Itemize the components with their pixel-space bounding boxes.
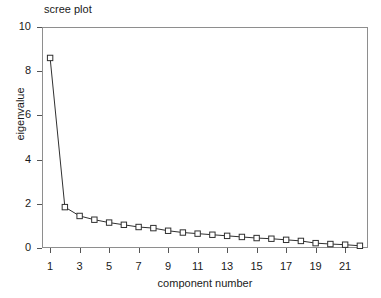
data-point-marker	[136, 224, 141, 229]
data-point-marker	[165, 228, 170, 233]
data-point-marker	[121, 222, 126, 227]
data-point-marker	[62, 204, 67, 209]
data-point-marker	[298, 238, 303, 243]
data-point-marker	[328, 241, 333, 246]
data-point-marker	[357, 243, 362, 248]
data-point-marker	[106, 220, 111, 225]
data-point-marker	[283, 237, 288, 242]
plot-data-layer	[0, 0, 381, 298]
data-point-marker	[195, 231, 200, 236]
bottom-caption	[10, 291, 370, 298]
scree-plot-figure: scree plot eigenvalue component number 0…	[0, 0, 381, 298]
data-point-marker	[224, 233, 229, 238]
data-point-marker	[180, 230, 185, 235]
data-point-marker	[269, 236, 274, 241]
data-point-marker	[151, 225, 156, 230]
data-point-marker	[313, 240, 318, 245]
data-markers	[47, 55, 362, 248]
data-point-marker	[210, 232, 215, 237]
data-point-marker	[254, 235, 259, 240]
data-point-marker	[92, 217, 97, 222]
data-point-marker	[77, 213, 82, 218]
data-point-marker	[342, 242, 347, 247]
data-point-marker	[239, 234, 244, 239]
data-point-marker	[47, 55, 52, 60]
